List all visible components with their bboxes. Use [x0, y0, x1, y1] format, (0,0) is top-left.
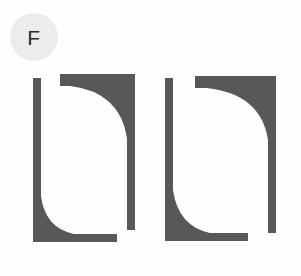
figure-panel: F: [0, 0, 301, 276]
panel-label-badge: F: [10, 13, 58, 61]
panel-label-text: F: [27, 27, 40, 48]
